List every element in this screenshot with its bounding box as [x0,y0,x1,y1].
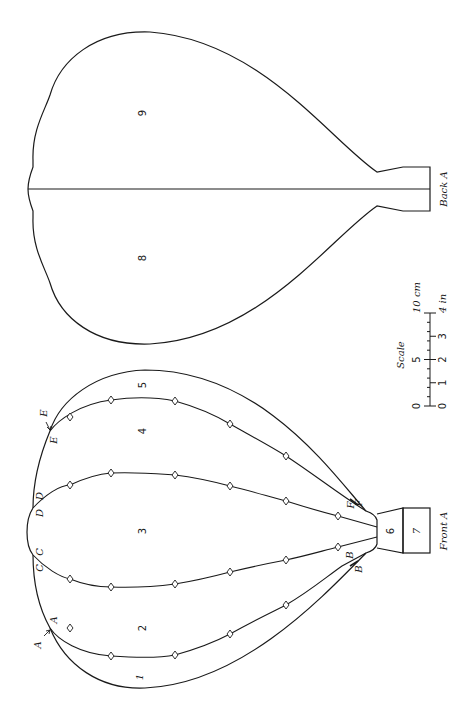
label-E-outer: E [38,409,49,418]
panel-3-label: 3 [137,528,148,534]
front-piece [27,370,430,688]
seam-4-5 [50,398,366,511]
arrow-E-icon [46,422,51,430]
junction-labels: E E D D C C A A F F B B [32,409,364,650]
scale-cm-0: 0 [411,403,422,409]
front-panel-labels: 5 4 3 2 1 6 7 Front A [134,382,449,680]
scale-in-ticks [430,313,436,406]
scale-cm-10: 10 cm [411,282,422,313]
label-C-inner: C [34,564,45,572]
front-piece-label: Front A [438,512,449,552]
panel-4-label: 4 [137,428,148,434]
panel-9-label: 9 [137,110,148,116]
scale-in-4: 4 in [437,294,448,314]
panel-2-label: 2 [137,625,148,631]
scale-cm-5: 5 [411,356,422,362]
seam-3-4 [33,473,377,527]
seam-2-3 [33,537,377,587]
scale-in-2: 2 [437,356,448,362]
label-D-inner: D [34,509,45,518]
back-piece-label: Back A [438,171,449,207]
back-piece-outline [28,32,430,344]
scale-in-1: 1 [437,380,448,386]
panel-1-label: 1 [134,674,145,680]
label-A-outer: A [32,641,43,649]
label-B-outer: B [344,551,355,559]
label-E-inner: E [48,436,59,445]
scale-cm-ticks [424,313,430,406]
label-B-inner: B [353,565,364,573]
front-outline-d-c [27,508,33,555]
panel-5-label: 5 [137,382,148,388]
back-piece: 9 8 Back A [28,32,449,344]
scale-title: Scale [395,341,406,369]
panel-8-label: 8 [137,255,148,261]
front-outline-top [50,370,366,511]
scale-in-0: 0 [437,403,448,409]
balloon-pattern-diagram: 9 8 Back A Scale 0 5 [0,0,476,709]
scale-in-3: 3 [437,333,448,339]
seam-markers [67,396,341,660]
label-C-outer: C [34,548,45,556]
label-D-outer: D [34,492,45,501]
scale-bar: Scale 0 5 10 cm 0 1 2 3 4 in [395,282,448,409]
arrow-A-icon [44,630,50,636]
front-outline-bottom [50,553,366,688]
seam-1-2 [50,553,366,657]
label-A-inner: A [48,616,59,624]
panel-6-label: 6 [385,528,396,534]
panel-7-label: 7 [411,527,422,534]
